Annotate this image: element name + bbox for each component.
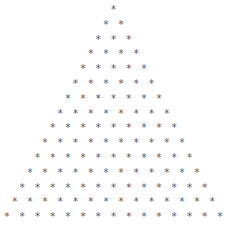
asterisk: * — [177, 167, 187, 179]
pyramid-row: **** — [0, 48, 234, 62]
pyramid-row: ************ — [0, 167, 234, 181]
asterisk: * — [93, 152, 103, 164]
asterisk: * — [63, 93, 73, 105]
asterisk: * — [109, 93, 119, 105]
asterisk: * — [162, 167, 172, 179]
asterisk: * — [116, 19, 126, 31]
asterisk: * — [48, 122, 58, 134]
asterisk: * — [93, 34, 103, 46]
asterisk: * — [200, 182, 210, 194]
asterisk: * — [169, 182, 179, 194]
asterisk: * — [93, 122, 103, 134]
asterisk: * — [71, 78, 81, 90]
asterisk: * — [78, 63, 88, 75]
asterisk: * — [147, 137, 157, 149]
pyramid-row: *********** — [0, 152, 234, 166]
pyramid-row: ********** — [0, 137, 234, 151]
asterisk: * — [116, 78, 126, 90]
asterisk: * — [131, 78, 141, 90]
asterisk: * — [40, 196, 50, 208]
asterisk: * — [124, 182, 134, 194]
asterisk: * — [109, 63, 119, 75]
asterisk: * — [116, 48, 126, 60]
asterisk: * — [101, 19, 111, 31]
asterisk: * — [147, 167, 157, 179]
asterisk: * — [116, 196, 126, 208]
asterisk: * — [86, 48, 96, 60]
asterisk: * — [124, 93, 134, 105]
asterisk: * — [48, 152, 58, 164]
asterisk: * — [109, 182, 119, 194]
asterisk: * — [55, 108, 65, 120]
asterisk: * — [78, 182, 88, 194]
asterisk: * — [86, 137, 96, 149]
asterisk: * — [124, 122, 134, 134]
asterisk: * — [40, 167, 50, 179]
asterisk: * — [124, 152, 134, 164]
asterisk: * — [116, 137, 126, 149]
pyramid-row: ******** — [0, 108, 234, 122]
asterisk: * — [101, 137, 111, 149]
asterisk: * — [93, 63, 103, 75]
asterisk: * — [48, 182, 58, 194]
asterisk: * — [33, 182, 43, 194]
asterisk: * — [147, 108, 157, 120]
asterisk: * — [116, 167, 126, 179]
asterisk: * — [131, 167, 141, 179]
asterisk: * — [93, 211, 103, 223]
asterisk: * — [2, 211, 12, 223]
asterisk: * — [147, 78, 157, 90]
star-pyramid: ****************************************… — [0, 0, 234, 234]
asterisk: * — [71, 196, 81, 208]
asterisk: * — [185, 152, 195, 164]
asterisk: * — [139, 182, 149, 194]
asterisk: * — [109, 4, 119, 16]
asterisk: * — [177, 137, 187, 149]
pyramid-row: ***** — [0, 63, 234, 77]
asterisk: * — [131, 137, 141, 149]
asterisk: * — [154, 211, 164, 223]
asterisk: * — [169, 122, 179, 134]
asterisk: * — [154, 152, 164, 164]
asterisk: * — [162, 137, 172, 149]
asterisk: * — [207, 196, 217, 208]
asterisk: * — [116, 108, 126, 120]
asterisk: * — [71, 108, 81, 120]
pyramid-row: * — [0, 4, 234, 18]
asterisk: * — [162, 108, 172, 120]
asterisk: * — [25, 196, 35, 208]
asterisk: * — [78, 152, 88, 164]
asterisk: * — [185, 211, 195, 223]
asterisk: * — [55, 167, 65, 179]
asterisk: * — [63, 182, 73, 194]
asterisk: * — [55, 137, 65, 149]
pyramid-row: ************* — [0, 182, 234, 196]
asterisk: * — [33, 152, 43, 164]
asterisk: * — [48, 211, 58, 223]
asterisk: * — [169, 211, 179, 223]
pyramid-row: ****** — [0, 78, 234, 92]
asterisk: * — [86, 167, 96, 179]
asterisk: * — [93, 182, 103, 194]
asterisk: * — [33, 211, 43, 223]
asterisk: * — [139, 63, 149, 75]
asterisk: * — [63, 152, 73, 164]
asterisk: * — [185, 182, 195, 194]
asterisk: * — [124, 63, 134, 75]
pyramid-row: ************** — [0, 196, 234, 210]
asterisk: * — [25, 167, 35, 179]
asterisk: * — [17, 182, 27, 194]
asterisk: * — [101, 167, 111, 179]
asterisk: * — [17, 211, 27, 223]
asterisk: * — [40, 137, 50, 149]
asterisk: * — [86, 108, 96, 120]
asterisk: * — [154, 182, 164, 194]
asterisk: * — [109, 122, 119, 134]
asterisk: * — [78, 122, 88, 134]
asterisk: * — [177, 196, 187, 208]
asterisk: * — [86, 196, 96, 208]
asterisk: * — [192, 196, 202, 208]
asterisk: * — [124, 211, 134, 223]
asterisk: * — [109, 34, 119, 46]
asterisk: * — [139, 211, 149, 223]
